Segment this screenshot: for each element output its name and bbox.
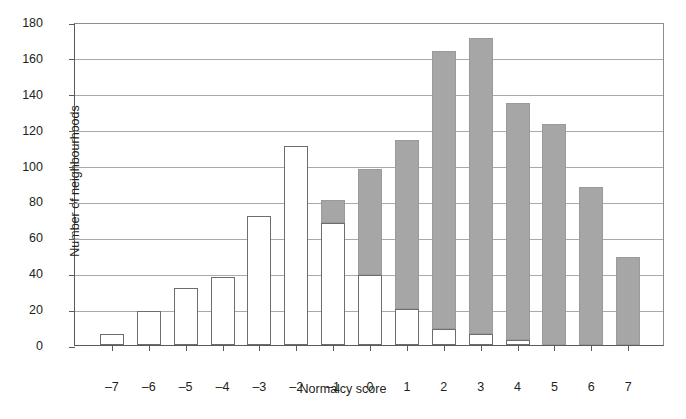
- x-axis-tick: [554, 345, 555, 351]
- bar-3: [469, 38, 493, 345]
- chart-root: Number of neighbourhoods 020406080100120…: [0, 0, 686, 419]
- x-axis-tick: [112, 345, 113, 351]
- y-axis-tick-label: 140: [3, 89, 43, 102]
- bar--6: [137, 311, 161, 345]
- gridline: [75, 95, 663, 96]
- x-axis-tick: [149, 345, 150, 351]
- x-axis-tick: [223, 345, 224, 351]
- bar-segment-white: [432, 329, 456, 345]
- bar-5: [542, 124, 566, 345]
- bar-segment-white: [100, 334, 124, 345]
- y-axis-tick-label: 20: [3, 304, 43, 317]
- y-axis-tick-label: 0: [3, 340, 43, 353]
- bar-2: [432, 51, 456, 345]
- bar-segment-grey: [506, 103, 530, 340]
- bar-segment-grey: [432, 51, 456, 329]
- bar-segment-white: [358, 275, 382, 345]
- gridline: [75, 167, 663, 168]
- x-axis-tick: [333, 345, 334, 351]
- bar-1: [395, 140, 419, 345]
- bar-segment-grey: [469, 38, 493, 334]
- x-axis-tick: [407, 345, 408, 351]
- x-axis-tick: [481, 345, 482, 351]
- bar-segment-grey: [395, 140, 419, 309]
- bar-segment-white: [174, 288, 198, 345]
- bar-segment-white: [284, 146, 308, 345]
- bar--3: [247, 216, 271, 345]
- x-axis-tick: [628, 345, 629, 351]
- y-axis-tick-label: 60: [3, 232, 43, 245]
- bar-segment-white: [321, 223, 345, 345]
- y-axis-tick: [69, 311, 75, 312]
- y-axis-tick: [69, 347, 75, 348]
- gridline: [75, 59, 663, 60]
- plot-area: Number of neighbourhoods 020406080100120…: [74, 23, 664, 346]
- bar--1: [321, 200, 345, 345]
- bar--5: [174, 288, 198, 345]
- bar-segment-grey: [358, 169, 382, 275]
- x-axis-tick: [518, 345, 519, 351]
- bar-segment-white: [395, 309, 419, 345]
- bar--7: [100, 334, 124, 345]
- y-axis-tick-label: 100: [3, 161, 43, 174]
- y-axis-tick: [69, 95, 75, 96]
- y-axis-tick: [69, 24, 75, 25]
- bar-4: [506, 103, 530, 345]
- gridline: [75, 131, 663, 132]
- y-axis-tick: [69, 59, 75, 60]
- x-axis-title: Normalcy score: [0, 382, 686, 396]
- x-axis-tick: [444, 345, 445, 351]
- bar-segment-white: [211, 277, 235, 345]
- bar-segment-white: [469, 334, 493, 345]
- y-axis-tick-label: 180: [3, 17, 43, 30]
- x-axis-tick: [296, 345, 297, 351]
- clipped-caption: [0, 0, 686, 9]
- y-axis-tick: [69, 131, 75, 132]
- bar-segment-white: [506, 340, 530, 345]
- y-axis-tick: [69, 167, 75, 168]
- bar--2: [284, 146, 308, 345]
- bar-segment-grey: [542, 124, 566, 345]
- y-axis-tick: [69, 275, 75, 276]
- x-axis-tick: [186, 345, 187, 351]
- bar-segment-grey: [616, 257, 640, 345]
- y-axis-tick: [69, 239, 75, 240]
- y-axis-tick-label: 80: [3, 196, 43, 209]
- bar-segment-white: [247, 216, 271, 345]
- bar--4: [211, 277, 235, 345]
- y-axis-tick: [69, 203, 75, 204]
- y-axis-tick-label: 40: [3, 268, 43, 281]
- bar-segment-white: [137, 311, 161, 345]
- y-axis-tick-label: 120: [3, 125, 43, 138]
- x-axis-tick: [259, 345, 260, 351]
- y-axis-title: Number of neighbourhoods: [68, 31, 82, 331]
- bar-6: [579, 187, 603, 345]
- x-axis-tick: [591, 345, 592, 351]
- bar-7: [616, 257, 640, 345]
- bar-segment-grey: [321, 200, 345, 223]
- x-axis-tick: [370, 345, 371, 351]
- bar-0: [358, 169, 382, 345]
- bar-segment-grey: [579, 187, 603, 345]
- y-axis-tick-label: 160: [3, 53, 43, 66]
